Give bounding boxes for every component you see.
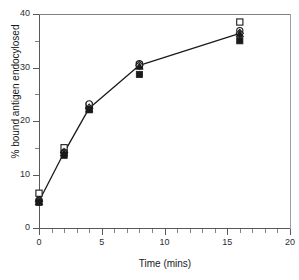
plot-area — [39, 14, 290, 228]
x-axis-title: Time (mins) — [39, 258, 291, 269]
y-axis-title: % bound antigen endocylosed — [10, 0, 21, 202]
chart-figure: 01020304005101520 % bound antigen endocy… — [0, 0, 299, 280]
